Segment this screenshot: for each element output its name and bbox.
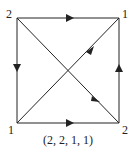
arrow-up-right-icon: [115, 64, 123, 72]
directed-graph-diagram: 2 1 1 2 (2, 2, 1, 1): [0, 0, 132, 147]
vertex-label-top-right: 1: [122, 7, 128, 21]
diagram-caption: (2, 2, 1, 1): [43, 133, 93, 147]
arrow-right-top-icon: [66, 14, 74, 22]
vertex-label-top-left: 2: [6, 7, 12, 21]
vertex-label-bottom-right: 2: [122, 123, 128, 137]
arrow-down-left-icon: [13, 64, 21, 72]
vertex-label-bottom-left: 1: [8, 123, 14, 137]
arrow-right-bottom-icon: [66, 119, 74, 127]
arrow-diagonal-up-left-icon: [91, 96, 100, 102]
